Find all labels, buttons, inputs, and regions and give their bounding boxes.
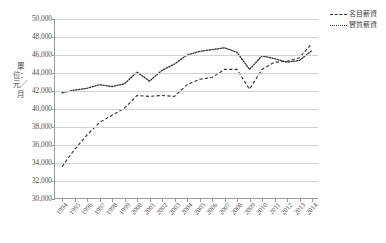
x-tick-label: 2002 [155,202,169,216]
legend-item-real: 實質薪資 [330,20,386,31]
legend: 名目薪資 實質薪資 [330,9,386,31]
x-tick-label: 2010 [255,202,269,216]
x-tick-label: 1998 [105,202,119,216]
x-tick-label: 1996 [80,202,94,216]
x-tick-label: 2014 [305,202,319,216]
x-tick-label: 2000 [130,202,144,216]
x-tick-label: 2006 [205,202,219,216]
legend-swatch-dashed-icon [330,14,347,16]
legend-label-nominal: 名目薪資 [349,9,377,20]
x-tick-label: 2004 [180,202,194,216]
x-axis-tick-labels: 1994199519961997199819992000200120022003… [0,0,386,243]
x-tick-label: 1994 [55,202,69,216]
wage-trend-chart: 單位：元／月 30,00032,00034,00036,00038,00040,… [0,0,386,243]
legend-item-nominal: 名目薪資 [330,9,386,20]
legend-label-real: 實質薪資 [349,20,377,31]
x-tick-label: 2012 [280,202,294,216]
x-tick-label: 2008 [230,202,244,216]
legend-swatch-dotted-icon [330,25,347,27]
